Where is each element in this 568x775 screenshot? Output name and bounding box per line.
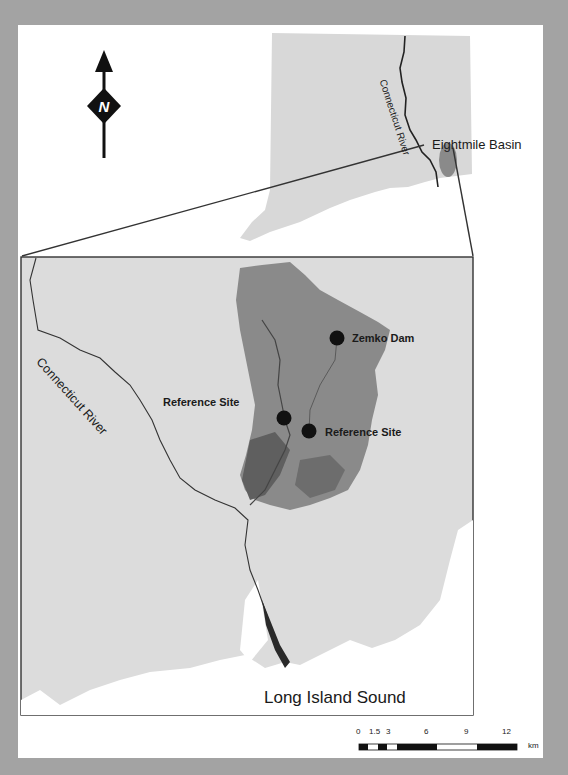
scale-unit: km <box>528 741 539 750</box>
site-marker-reference-2 <box>302 424 317 439</box>
site-label-reference-1: Reference Site <box>163 396 239 408</box>
site-marker-zemko-dam <box>330 331 345 346</box>
scale-tick-1-5: 1.5 <box>369 727 380 736</box>
svg-text:N: N <box>99 98 111 115</box>
scale-tick-3: 3 <box>386 727 390 736</box>
basin-label: Eightmile Basin <box>432 137 522 152</box>
scale-tick-0: 0 <box>356 727 360 736</box>
scale-tick-6: 6 <box>424 727 428 736</box>
water-body-label: Long Island Sound <box>264 688 406 708</box>
north-arrow-icon: N <box>87 50 121 158</box>
map-canvas: N <box>0 0 568 775</box>
scale-tick-12: 12 <box>502 727 511 736</box>
scale-bar <box>359 744 517 750</box>
inset-connector-left <box>22 145 424 256</box>
scale-tick-9: 9 <box>464 727 468 736</box>
site-label-reference-2: Reference Site <box>325 426 401 438</box>
site-label-zemko-dam: Zemko Dam <box>352 332 414 344</box>
site-marker-reference-1 <box>277 411 292 426</box>
inset-map <box>21 257 473 715</box>
